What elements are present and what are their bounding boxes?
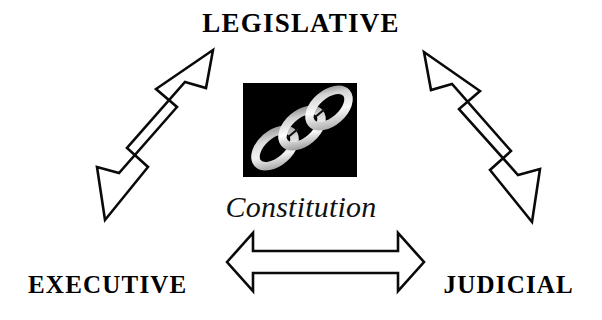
node-label-judicial: JUDICIAL [444, 272, 574, 297]
separation-of-powers-diagram: LEGISLATIVE Constitution EXECUTIVE JUDIC… [0, 0, 602, 320]
node-label-legislative: LEGISLATIVE [0, 10, 602, 37]
center-caption-constitution: Constitution [0, 192, 602, 222]
arrow-executive-judicial [227, 233, 424, 291]
node-label-executive: EXECUTIVE [28, 272, 187, 297]
chain-links-emblem [243, 83, 357, 177]
